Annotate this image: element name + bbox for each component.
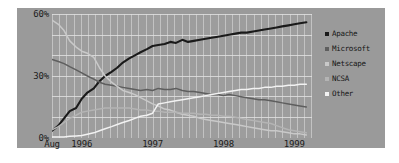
plot-area bbox=[52, 14, 312, 138]
legend-item-label: Apache bbox=[332, 30, 357, 38]
x-axis-tick-label: Aug bbox=[36, 140, 68, 149]
legend-item-apache[interactable]: Apache bbox=[325, 26, 383, 41]
chart-screenshot: 60%30%0% Aug1996199719981999 ApacheMicro… bbox=[0, 0, 399, 163]
legend-swatch-icon bbox=[325, 47, 329, 51]
legend-swatch-icon bbox=[325, 62, 329, 66]
legend-item-label: NCSA bbox=[332, 75, 349, 83]
legend-item-microsoft[interactable]: Microsoft bbox=[325, 41, 383, 56]
legend-item-other[interactable]: Other bbox=[325, 86, 383, 101]
chart-panel: 60%30%0% Aug1996199719981999 ApacheMicro… bbox=[17, 8, 385, 148]
chart-legend: ApacheMicrosoftNetscapeNCSAOther bbox=[325, 26, 383, 101]
legend-item-netscape[interactable]: Netscape bbox=[325, 56, 383, 71]
legend-swatch-icon bbox=[325, 92, 329, 96]
x-axis-tick-label: 1998 bbox=[207, 140, 239, 149]
legend-item-label: Microsoft bbox=[332, 45, 370, 53]
legend-swatch-icon bbox=[325, 32, 329, 36]
y-axis-tick-label: 30% bbox=[17, 72, 49, 81]
legend-item-label: Netscape bbox=[332, 60, 366, 68]
x-axis-tick-label: 1997 bbox=[137, 140, 169, 149]
legend-swatch-icon bbox=[325, 77, 329, 81]
y-axis-tick-label: 60% bbox=[17, 10, 49, 19]
legend-item-ncsa[interactable]: NCSA bbox=[325, 71, 383, 86]
x-axis-tick-label: 1999 bbox=[278, 140, 310, 149]
series-line-ncsa bbox=[52, 108, 306, 133]
legend-item-label: Other bbox=[332, 90, 353, 98]
series-lines bbox=[52, 14, 312, 138]
x-axis-tick-label: 1996 bbox=[66, 140, 98, 149]
